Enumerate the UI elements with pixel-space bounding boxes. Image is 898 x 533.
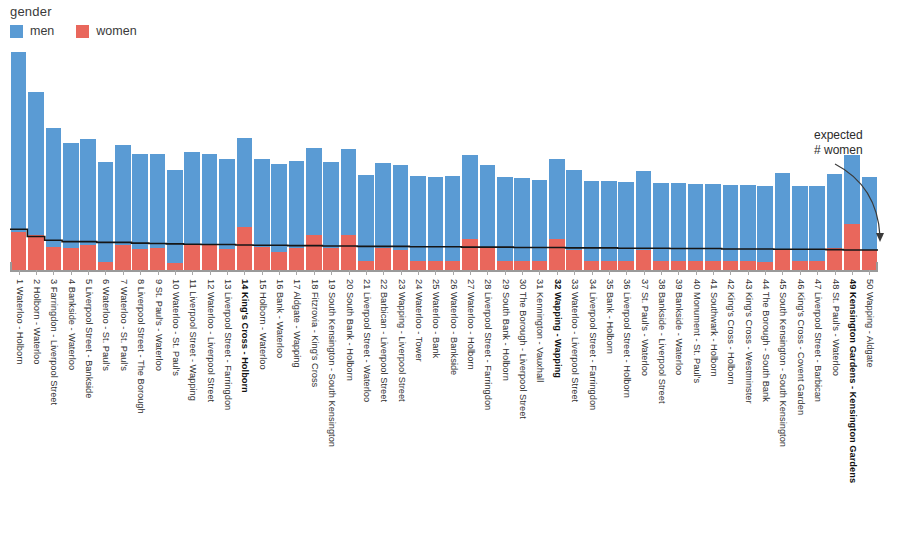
x-axis-label: 10 Waterloo - St. Paul's <box>170 279 179 376</box>
bar-column[interactable] <box>618 52 635 270</box>
bar-column[interactable] <box>600 52 617 270</box>
x-axis-tick <box>479 270 496 275</box>
bar-column[interactable] <box>62 52 79 270</box>
bar-segment-women <box>358 261 374 270</box>
x-axis-tick <box>687 270 704 275</box>
bar-segment-women <box>601 261 617 270</box>
x-axis-label: 34 Liverpool Street - Farringdon <box>587 279 596 410</box>
bar-column[interactable] <box>305 52 322 270</box>
legend-entry-men[interactable]: men <box>10 24 54 38</box>
bar-segment-men <box>480 165 496 249</box>
bar-column[interactable] <box>10 52 27 270</box>
bar-column[interactable] <box>427 52 444 270</box>
x-axis-label: 12 Waterloo - Liverpool Street <box>205 279 214 402</box>
x-axis-label: 27 Waterloo - Holborn <box>465 279 474 370</box>
bar-column[interactable] <box>635 52 652 270</box>
bar-column[interactable] <box>756 52 773 270</box>
bar-series-container <box>10 52 878 270</box>
bar-segment-women <box>671 261 687 270</box>
bar-segment-men <box>80 139 96 244</box>
bar-column[interactable] <box>670 52 687 270</box>
bar-column[interactable] <box>861 52 878 270</box>
bar-column[interactable] <box>149 52 166 270</box>
bar-column[interactable] <box>97 52 114 270</box>
x-axis-tick <box>444 270 461 275</box>
bar-segment-women <box>271 252 287 270</box>
bar-column[interactable] <box>461 52 478 270</box>
x-axis-label: 24 Waterloo - Tower <box>413 279 422 362</box>
x-axis-label-cell: 7 Waterloo - St. Paul's <box>114 277 131 527</box>
bar-segment-women <box>63 248 79 270</box>
x-axis-label-cell: 39 Bankside - Waterloo <box>670 277 687 527</box>
bar-column[interactable] <box>548 52 565 270</box>
bar-segment-men <box>341 149 357 235</box>
bar-column[interactable] <box>809 52 826 270</box>
bar-column[interactable] <box>184 52 201 270</box>
x-axis-tick <box>739 270 756 275</box>
bar-column[interactable] <box>27 52 44 270</box>
bar-segment-women <box>775 249 791 270</box>
bar-segment-women <box>705 261 721 270</box>
bar-column[interactable] <box>774 52 791 270</box>
bar-column[interactable] <box>826 52 843 270</box>
bar-column[interactable] <box>409 52 426 270</box>
x-axis-tick <box>496 270 513 275</box>
legend-entry-women[interactable]: women <box>76 24 136 38</box>
bar-column[interactable] <box>201 52 218 270</box>
bar-column[interactable] <box>357 52 374 270</box>
bar-column[interactable] <box>513 52 530 270</box>
x-axis-label-cell: 27 Waterloo - Holborn <box>461 277 478 527</box>
x-axis-tick <box>791 270 808 275</box>
x-axis-label-cell: 10 Waterloo - St. Paul's <box>166 277 183 527</box>
bar-column[interactable] <box>166 52 183 270</box>
bar-column[interactable] <box>288 52 305 270</box>
bar-column[interactable] <box>722 52 739 270</box>
bar-segment-men <box>601 181 617 260</box>
bar-column[interactable] <box>322 52 339 270</box>
x-axis-label-cell: 40 Monument - St. Paul's <box>687 277 704 527</box>
x-axis-label-cell: 38 Bankside - Liverpool Street <box>652 277 669 527</box>
bar-column[interactable] <box>236 52 253 270</box>
bar-column[interactable] <box>253 52 270 270</box>
bar-column[interactable] <box>739 52 756 270</box>
bar-segment-men <box>757 186 773 262</box>
bar-segment-women <box>28 235 44 270</box>
bar-segment-men <box>202 154 218 245</box>
bar-column[interactable] <box>45 52 62 270</box>
bar-column[interactable] <box>79 52 96 270</box>
bar-segment-men <box>410 176 426 261</box>
bar-segment-men <box>237 138 253 227</box>
bar-column[interactable] <box>375 52 392 270</box>
bar-segment-women <box>844 224 860 271</box>
bar-column[interactable] <box>566 52 583 270</box>
bar-column[interactable] <box>218 52 235 270</box>
bar-column[interactable] <box>791 52 808 270</box>
bar-column[interactable] <box>583 52 600 270</box>
bar-column[interactable] <box>704 52 721 270</box>
bar-column[interactable] <box>270 52 287 270</box>
bar-segment-men <box>375 163 391 248</box>
bar-column[interactable] <box>132 52 149 270</box>
bar-segment-men <box>289 161 305 248</box>
x-axis-label: 20 South Bank - Holborn <box>344 279 353 381</box>
x-axis-tick <box>97 270 114 275</box>
bar-column[interactable] <box>496 52 513 270</box>
bar-column[interactable] <box>843 52 860 270</box>
bar-segment-women <box>827 248 843 270</box>
bar-column[interactable] <box>340 52 357 270</box>
bar-column[interactable] <box>531 52 548 270</box>
bar-segment-women <box>618 261 634 270</box>
x-axis-label-cell: 14 King's Cross - Holborn <box>236 277 253 527</box>
bar-column[interactable] <box>652 52 669 270</box>
bar-segment-women <box>80 245 96 270</box>
bar-column[interactable] <box>687 52 704 270</box>
x-axis-label-cell: 19 South Kensington - South Kensington <box>322 277 339 527</box>
bar-segment-men <box>862 177 878 250</box>
x-axis-label-cell: 28 Liverpool Street - Farringdon <box>479 277 496 527</box>
x-axis-label: 41 Southwark - Holborn <box>708 279 717 377</box>
bar-column[interactable] <box>114 52 131 270</box>
bar-column[interactable] <box>479 52 496 270</box>
bar-column[interactable] <box>392 52 409 270</box>
bar-column[interactable] <box>444 52 461 270</box>
x-axis-tick <box>461 270 478 275</box>
